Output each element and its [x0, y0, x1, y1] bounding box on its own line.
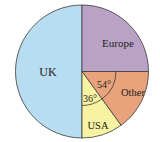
label-usa: USA [87, 120, 108, 131]
label-angle-usa: 36° [83, 93, 97, 104]
pie-chart: UK Europe Other USA 54° 36° [0, 0, 160, 142]
label-uk: UK [39, 65, 57, 79]
label-europe: Europe [102, 37, 134, 49]
label-angle-other: 54° [97, 79, 111, 90]
label-other: Other [121, 87, 145, 98]
